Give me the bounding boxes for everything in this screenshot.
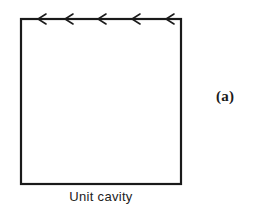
panel-label: (a) — [216, 88, 234, 105]
figure-caption: Unit cavity — [21, 189, 181, 204]
cavity-box — [21, 19, 181, 184]
unit-cavity-diagram — [0, 0, 259, 213]
